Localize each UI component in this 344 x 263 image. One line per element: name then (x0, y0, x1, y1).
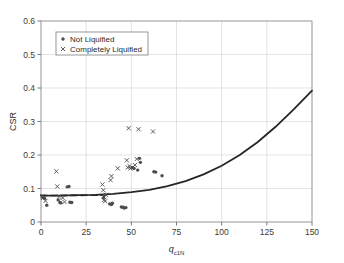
y-tick-label: 0.2 (23, 150, 35, 160)
data-point-dot (160, 174, 163, 177)
y-tick-label: 0.6 (23, 16, 35, 26)
data-point-dot (61, 37, 64, 40)
series-completely-liquified (40, 126, 155, 204)
data-point-dot (45, 204, 48, 207)
data-point-dot (70, 201, 73, 204)
data-point-cross (109, 174, 113, 178)
data-point-cross (55, 184, 59, 188)
data-point-dot (132, 167, 135, 170)
x-tick-label: 25 (81, 227, 91, 237)
data-point-dot (139, 161, 142, 164)
y-tick-label: 0.4 (23, 83, 35, 93)
chart-figure: 025507510012515000.10.20.30.40.50.6CSRqc… (0, 0, 344, 263)
data-point-dot (124, 206, 127, 209)
data-point-cross (100, 182, 104, 186)
legend-label-0: Not Liquified (70, 35, 114, 44)
data-point-cross (133, 163, 137, 167)
legend-label-1: Completely Liquified (70, 45, 142, 54)
data-point-cross (127, 126, 131, 130)
y-tick-label: 0.3 (23, 117, 35, 127)
x-axis-title: qc1N (169, 244, 185, 256)
data-point-cross (62, 200, 66, 204)
x-tick-label: 50 (127, 227, 137, 237)
data-point-cross (103, 199, 107, 203)
data-point-cross (116, 166, 120, 170)
data-point-cross (136, 127, 140, 131)
data-point-cross (54, 169, 58, 173)
legend: Not LiquifiedCompletely Liquified (56, 32, 148, 55)
x-tick-label: 150 (305, 227, 319, 237)
data-point-cross (151, 129, 155, 133)
data-point-dot (136, 168, 139, 171)
x-tick-label: 75 (172, 227, 182, 237)
y-axis-title: CSR (8, 112, 18, 132)
y-tick-label: 0.5 (23, 50, 35, 60)
data-point-cross (108, 178, 112, 182)
x-tick-label: 125 (260, 227, 274, 237)
data-point-cross (125, 158, 129, 162)
data-point-dot (111, 202, 114, 205)
data-point-dot (154, 170, 157, 173)
y-tick-label: 0 (30, 217, 35, 227)
x-tick-label: 0 (39, 227, 44, 237)
data-point-dot (67, 185, 70, 188)
data-point-cross (61, 196, 65, 200)
y-tick-label: 0.1 (23, 184, 35, 194)
x-tick-label: 100 (215, 227, 229, 237)
data-point-dot (59, 201, 62, 204)
scatter-plot-svg: 025507510012515000.10.20.30.40.50.6CSRqc… (0, 0, 344, 263)
